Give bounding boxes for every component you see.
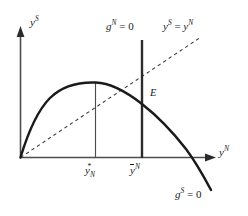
gn-label-equals: = [116, 20, 128, 32]
tick-bar-superscript: N [135, 162, 140, 171]
x-axis-arrowhead [205, 154, 216, 162]
gn-zero-locus-label: gN = 0 [106, 21, 134, 32]
equilibrium-point-label: E [150, 88, 156, 99]
tick-star-subscript: N [90, 170, 95, 179]
gs-zero-locus-label: gS = 0 [175, 189, 201, 200]
tick-label-y-n-star: y*N [85, 165, 95, 176]
diagonal-line-label: yS = yN [163, 21, 193, 32]
gs-label-equals: = [184, 188, 196, 200]
gs-label-value: 0 [196, 188, 202, 200]
x-axis-label: yN [219, 147, 229, 158]
phase-diagram-figure: yS yN gN = 0 yS = yN E y*N yN gS = 0 [0, 0, 248, 216]
tick-label-y-bar-n: yN [130, 165, 140, 176]
gs-zero-curve [21, 82, 212, 190]
tick-bar-base: y [130, 165, 135, 176]
gn-label-value: 0 [128, 20, 134, 32]
forty-five-degree-dashed-line [21, 37, 202, 158]
y-axis-label-superscript: S [35, 14, 39, 23]
diagonal-equals: = [172, 20, 184, 32]
diagonal-right-superscript: N [188, 18, 193, 27]
tick-star-mark: * [88, 163, 92, 171]
x-axis-label-superscript: N [224, 144, 229, 153]
tick-star-wrapper: y* [85, 165, 90, 176]
diagram-canvas [0, 0, 248, 216]
y-axis-label: yS [30, 17, 39, 28]
y-axis-arrowhead [17, 26, 25, 37]
